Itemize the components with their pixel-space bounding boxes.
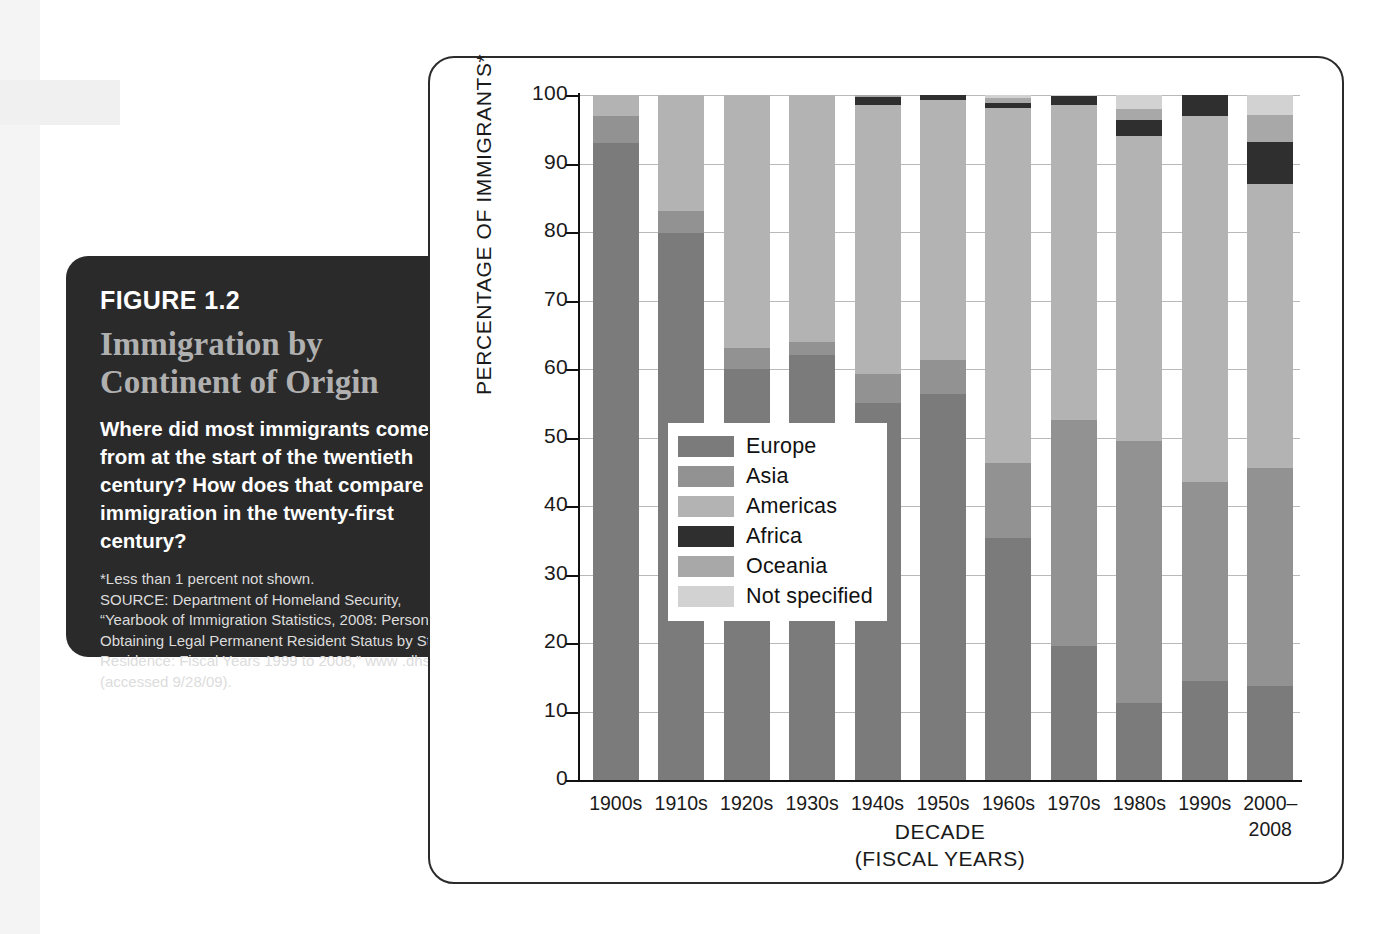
figure-notes: *Less than 1 percent not shown. SOURCE: … (100, 569, 472, 692)
bar-segment-asia (985, 463, 1031, 538)
y-axis-tick (566, 232, 580, 234)
figure-title: Immigration by Continent of Origin (100, 325, 472, 401)
legend-label: Europe (746, 434, 817, 459)
legend-item-americas[interactable]: Americas (678, 491, 873, 521)
bar-segment-europe (985, 538, 1031, 780)
bar-segment-americas (1116, 136, 1162, 441)
y-tick-label: 50 (508, 424, 568, 448)
bar-segment-asia (1116, 441, 1162, 703)
x-axis-title: DECADE (FISCAL YEARS) (580, 818, 1300, 872)
y-axis-tick (566, 438, 580, 440)
legend-label: Americas (746, 494, 837, 519)
bar-segment-africa (855, 97, 901, 105)
bar-segment-europe (593, 143, 639, 780)
legend-label: Not specified (746, 584, 873, 609)
bar-segment-africa (920, 95, 966, 100)
legend-item-europe[interactable]: Europe (678, 431, 873, 461)
bar-segment-americas (658, 95, 704, 211)
bar-segment-not-specified (985, 95, 1031, 98)
bar-segment-asia (1247, 468, 1293, 686)
y-tick-label: 70 (508, 287, 568, 311)
chart-legend: EuropeAsiaAmericasAfricaOceaniaNot speci… (668, 423, 887, 621)
bar-segment-americas (855, 105, 901, 374)
bar-segment-oceania (1247, 115, 1293, 142)
bar-segment-americas (724, 95, 770, 348)
bar-segment-americas (920, 100, 966, 360)
bar-segment-africa (1051, 96, 1097, 105)
y-axis-tick (566, 712, 580, 714)
y-axis-tick (566, 780, 580, 782)
figure-source: SOURCE: Department of Homeland Security,… (100, 590, 472, 693)
bar-segment-asia (1051, 420, 1097, 646)
bar-stack (1182, 95, 1228, 780)
x-tick-label-line: 2000– (1230, 790, 1310, 816)
y-tick-label: 20 (508, 629, 568, 653)
bar-segment-not-specified (1247, 95, 1293, 115)
bar-segment-americas (1247, 184, 1293, 468)
y-axis-tick (566, 506, 580, 508)
bar-stack (920, 95, 966, 780)
bar-segment-europe (1051, 646, 1097, 780)
y-axis-tick (566, 301, 580, 303)
bar-stack (1116, 95, 1162, 780)
bar-segment-americas (985, 108, 1031, 463)
x-axis-line (578, 780, 1302, 782)
bar-stack (985, 95, 1031, 780)
bar-segment-oceania (855, 95, 901, 97)
legend-item-asia[interactable]: Asia (678, 461, 873, 491)
y-tick-label: 30 (508, 561, 568, 585)
bar-segment-europe (1247, 686, 1293, 780)
y-axis-tick (566, 575, 580, 577)
bar-segment-africa (985, 103, 1031, 108)
legend-swatch-icon (678, 526, 734, 547)
figure-question: Where did most immigrants come from at t… (100, 415, 472, 555)
legend-label: Asia (746, 464, 789, 489)
page-edge-artifact-secondary (0, 80, 120, 125)
y-axis-tick (566, 164, 580, 166)
bar-stack (1247, 95, 1293, 780)
figure-number: FIGURE 1.2 (100, 286, 472, 315)
legend-item-oceania[interactable]: Oceania (678, 551, 873, 581)
y-tick-label: 60 (508, 355, 568, 379)
bar-segment-asia (1182, 482, 1228, 681)
bar-segment-americas (593, 95, 639, 116)
figure-footnote: *Less than 1 percent not shown. (100, 569, 472, 590)
bar-segment-europe (920, 394, 966, 780)
legend-swatch-icon (678, 496, 734, 517)
bar-segment-asia (855, 374, 901, 403)
y-tick-label: 10 (508, 698, 568, 722)
y-tick-label: 80 (508, 218, 568, 242)
legend-swatch-icon (678, 436, 734, 457)
bar-segment-asia (789, 342, 835, 356)
y-axis-tick (566, 369, 580, 371)
bar-segment-americas (789, 95, 835, 342)
y-axis-label: PERCENTAGE OF IMMIGRANTS* (472, 54, 496, 395)
bar-segment-africa (1116, 120, 1162, 136)
y-tick-label: 90 (508, 150, 568, 174)
legend-label: Africa (746, 524, 802, 549)
bar-stack (1051, 95, 1097, 780)
y-axis-tick (566, 95, 580, 97)
legend-swatch-icon (678, 466, 734, 487)
legend-swatch-icon (678, 556, 734, 577)
page-edge-artifact (0, 0, 40, 934)
bar-segment-americas (1182, 116, 1228, 482)
x-axis-title-sub: (FISCAL YEARS) (580, 845, 1300, 872)
bar-stack (593, 95, 639, 780)
bar-segment-asia (658, 211, 704, 232)
bar-segment-asia (724, 348, 770, 369)
bar-segment-africa (1182, 95, 1228, 116)
bar-segment-europe (1182, 681, 1228, 780)
legend-label: Oceania (746, 554, 827, 579)
bar-segment-americas (1051, 105, 1097, 420)
y-axis-tick (566, 643, 580, 645)
y-tick-label: 100 (508, 81, 568, 105)
bar-segment-not-specified (1051, 95, 1097, 96)
bar-segment-europe (1116, 703, 1162, 780)
legend-swatch-icon (678, 586, 734, 607)
y-tick-label: 0 (508, 766, 568, 790)
legend-item-not-specified[interactable]: Not specified (678, 581, 873, 611)
legend-item-africa[interactable]: Africa (678, 521, 873, 551)
y-tick-label: 40 (508, 492, 568, 516)
x-axis-title-main: DECADE (580, 818, 1300, 845)
